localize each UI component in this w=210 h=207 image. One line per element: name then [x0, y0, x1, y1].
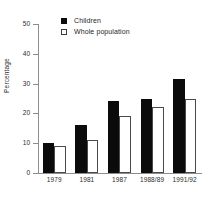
y-tick-label: 0 [14, 170, 30, 177]
bar-children [75, 125, 87, 173]
bar-whole-population [185, 99, 197, 173]
x-axis-labels: 1979198119871988/891991/92 [38, 177, 201, 184]
y-tick-label: 20 [14, 110, 30, 117]
bar-group [168, 24, 201, 173]
x-tick-label: 1991/92 [168, 177, 201, 184]
y-tick-label: 40 [14, 51, 30, 58]
filled-square-icon [61, 18, 67, 24]
y-tick-label: 30 [14, 81, 30, 88]
bar-children [108, 101, 120, 173]
y-tick-label: 10 [14, 140, 30, 147]
y-tick-label: 50 [14, 21, 30, 28]
x-axis-line [38, 173, 202, 174]
x-tick-label: 1988/89 [136, 177, 169, 184]
bar-group [103, 24, 136, 173]
bar-group [71, 24, 104, 173]
bar-whole-population [152, 107, 164, 173]
x-tick-label: 1987 [103, 177, 136, 184]
bar-children [141, 99, 153, 174]
y-tick-mark [33, 173, 38, 174]
x-tick-label: 1981 [71, 177, 104, 184]
bar-children [173, 79, 185, 173]
bar-groups [38, 24, 201, 173]
bar-children [43, 143, 55, 173]
bar-whole-population [54, 146, 66, 173]
y-axis-title: Percentage [3, 36, 10, 116]
bar-chart: Percentage 01020304050 Children Whole po… [0, 0, 210, 207]
legend-label-children: Children [74, 17, 101, 24]
bar-group [38, 24, 71, 173]
x-tick-label: 1979 [38, 177, 71, 184]
bar-whole-population [87, 140, 99, 173]
bar-whole-population [119, 116, 131, 173]
bar-group [136, 24, 169, 173]
